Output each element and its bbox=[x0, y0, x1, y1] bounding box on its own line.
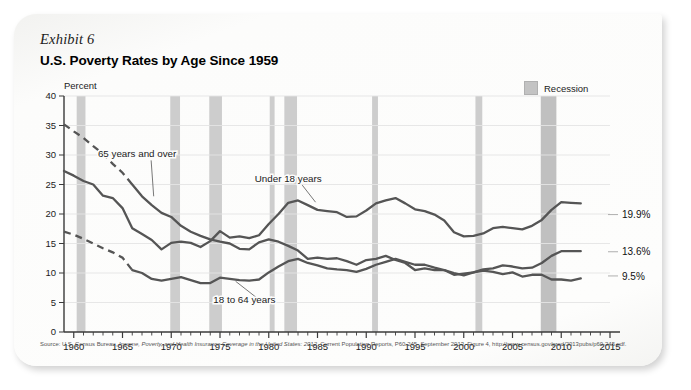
end-value-label: 13.6% bbox=[622, 246, 650, 257]
chart-plot-area: 0510152025303540196019651970197519801985… bbox=[14, 14, 662, 366]
y-tick-label: 20 bbox=[45, 208, 56, 219]
exhibit-card: Exhibit 6 U.S. Poverty Rates by Age Sinc… bbox=[14, 14, 662, 366]
end-value-label: 9.5% bbox=[622, 271, 645, 282]
annotation-leader-line bbox=[151, 160, 154, 196]
series-line bbox=[132, 251, 581, 283]
screenshot-root: Exhibit 6 U.S. Poverty Rates by Age Sinc… bbox=[0, 0, 691, 390]
y-tick-label: 40 bbox=[45, 90, 56, 101]
y-tick-label: 15 bbox=[45, 238, 56, 249]
series-line bbox=[64, 171, 581, 249]
poverty-rates-line-chart: 0510152025303540196019651970197519801985… bbox=[14, 14, 662, 366]
source-prefix: Source: U.S. Census Bureau, bbox=[40, 341, 119, 347]
series-annotation-label: 18 to 64 years bbox=[213, 294, 275, 305]
y-tick-label: 35 bbox=[45, 120, 56, 131]
end-value-label: 19.9% bbox=[622, 209, 650, 220]
source-note: Source: U.S. Census Bureau, Income, Pove… bbox=[40, 340, 640, 349]
series-line-dashed bbox=[64, 232, 132, 270]
series-annotation-label: 65 years and over bbox=[98, 148, 177, 159]
y-tick-label: 25 bbox=[45, 179, 56, 190]
source-title: Income, Poverty, and Health Insurance Co… bbox=[119, 341, 317, 347]
source-suffix: , Current Population Reports, P60-245, S… bbox=[317, 341, 626, 347]
y-tick-label: 10 bbox=[45, 267, 56, 278]
annotation-leader-line bbox=[302, 185, 315, 202]
y-tick-label: 5 bbox=[51, 297, 56, 308]
series-annotation-label: Under 18 years bbox=[255, 173, 322, 184]
exhibit-card-surface: Exhibit 6 U.S. Poverty Rates by Age Sinc… bbox=[14, 14, 662, 366]
y-tick-label: 0 bbox=[51, 326, 56, 337]
y-tick-label: 30 bbox=[45, 149, 56, 160]
